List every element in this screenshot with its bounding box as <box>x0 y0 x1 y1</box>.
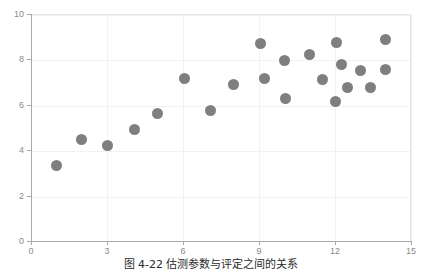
y-tick-mark <box>27 196 31 197</box>
data-point <box>342 82 353 93</box>
gridline-vertical <box>259 15 260 241</box>
x-tick-mark <box>183 241 184 245</box>
data-point <box>355 65 366 76</box>
y-tick-label: 10 <box>14 9 24 19</box>
figure-caption: 图 4-22 估测参数与评定之间的关系 <box>0 258 422 271</box>
y-tick-label: 0 <box>19 236 24 246</box>
data-point <box>317 74 328 85</box>
gridline-horizontal <box>31 60 410 61</box>
data-point <box>205 105 216 116</box>
gridline-vertical <box>183 15 184 241</box>
data-point <box>152 108 163 119</box>
data-point <box>259 73 270 84</box>
y-tick-mark <box>27 105 31 106</box>
gridline-horizontal <box>31 15 410 16</box>
x-tick-label: 6 <box>180 246 185 256</box>
x-tick-mark <box>107 241 108 245</box>
x-tick-label: 0 <box>28 246 33 256</box>
y-tick-label: 4 <box>19 145 24 155</box>
x-tick-mark <box>335 241 336 245</box>
y-tick-mark <box>27 241 31 242</box>
x-axis-line <box>31 241 411 242</box>
data-point <box>336 59 347 70</box>
data-point <box>331 37 342 48</box>
data-point <box>380 64 391 75</box>
data-point <box>179 73 190 84</box>
chart-plot-area: 03691215 0246810 <box>0 0 422 250</box>
data-point <box>380 34 391 45</box>
data-point <box>365 82 376 93</box>
data-point <box>279 55 290 66</box>
gridline-vertical <box>411 15 412 241</box>
gridline-vertical <box>107 15 108 241</box>
x-tick-label: 12 <box>330 246 340 256</box>
gridline-horizontal <box>31 151 410 152</box>
data-point <box>51 160 62 171</box>
x-tick-label: 9 <box>256 246 261 256</box>
data-point <box>102 140 113 151</box>
plot-frame <box>31 14 411 241</box>
x-tick-mark <box>411 241 412 245</box>
x-tick-label: 15 <box>406 246 416 256</box>
gridline-vertical <box>335 15 336 241</box>
y-tick-mark <box>27 14 31 15</box>
data-point <box>228 79 239 90</box>
x-tick-mark <box>259 241 260 245</box>
y-axis-line <box>31 14 32 241</box>
x-tick-mark <box>31 241 32 245</box>
data-point <box>304 49 315 60</box>
data-point <box>76 134 87 145</box>
data-point <box>129 124 140 135</box>
y-tick-mark <box>27 150 31 151</box>
y-tick-label: 8 <box>19 54 24 64</box>
data-point <box>330 96 341 107</box>
y-tick-label: 2 <box>19 191 24 201</box>
data-point <box>280 93 291 104</box>
gridline-horizontal <box>31 197 410 198</box>
gridline-horizontal <box>31 106 410 107</box>
y-tick-label: 6 <box>19 100 24 110</box>
x-tick-label: 3 <box>104 246 109 256</box>
data-point <box>255 38 266 49</box>
y-tick-mark <box>27 59 31 60</box>
